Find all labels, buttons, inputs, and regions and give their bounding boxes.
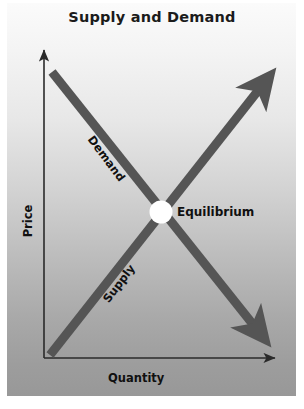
supply-demand-figure: Supply and Demand Demand Supply Equilibr… [0,0,304,409]
equilibrium-point-marker [150,201,173,224]
chart-plot-area [0,0,304,409]
x-axis-label: Quantity [108,371,164,385]
y-axis-label: Price [21,191,35,251]
equilibrium-label: Equilibrium [177,205,254,219]
